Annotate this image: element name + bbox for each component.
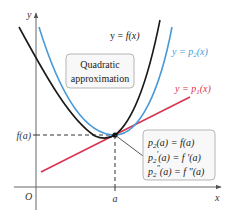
label-p2: y = p2(x)	[171, 46, 208, 59]
callout-line-2: approximation	[71, 73, 129, 84]
a-tick-label: a	[113, 193, 118, 204]
callout-pointer	[115, 135, 143, 156]
label-f: y = f(x)	[110, 30, 140, 42]
origin-label: O	[25, 191, 32, 202]
x-axis-label: x	[214, 192, 220, 203]
y-axis-label: y	[26, 9, 32, 20]
label-p1: y = p1(x)	[174, 83, 211, 96]
fa-tick-label: f(a)	[17, 130, 32, 142]
quadratic-approximation-diagram: Quadratic approximation p2(a) = f(a) p2′…	[0, 0, 231, 216]
condition-3: p2″(a) = f ″(a)	[147, 164, 205, 179]
callout-line-1: Quadratic	[80, 59, 120, 70]
